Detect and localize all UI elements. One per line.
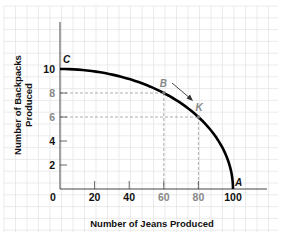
x-tick-label: 20 xyxy=(89,191,101,203)
x-tick-label: 60 xyxy=(158,191,170,203)
point-b xyxy=(162,91,166,95)
point-label-b: B xyxy=(160,78,167,89)
point-label-c: C xyxy=(63,54,71,65)
dashed-guides xyxy=(60,93,198,189)
y-axis-title-line2: Produced xyxy=(23,83,34,127)
y-tick-label: 4 xyxy=(49,135,55,147)
x-tick-label: 80 xyxy=(193,191,205,203)
point-k xyxy=(197,115,201,119)
point-label-k: K xyxy=(195,102,203,113)
y-tick-label: 8 xyxy=(49,87,55,99)
x-tick-label: 100 xyxy=(224,191,242,203)
x-tick-label: 0 xyxy=(50,191,56,203)
y-tick-label: 6 xyxy=(49,111,55,123)
point-label-a: A xyxy=(234,177,242,188)
y-tick-label: 10 xyxy=(43,63,55,75)
ppf-chart: 020406080100246810 CBKA Number of Backpa… xyxy=(0,0,290,249)
y-axis-title-line1: Number of Backpacks xyxy=(12,55,23,155)
x-tick-label: 40 xyxy=(123,191,135,203)
x-axis-title: Number of Jeans Produced xyxy=(90,218,214,229)
data-points: CBKA xyxy=(63,54,242,188)
y-tick-label: 2 xyxy=(49,159,55,171)
